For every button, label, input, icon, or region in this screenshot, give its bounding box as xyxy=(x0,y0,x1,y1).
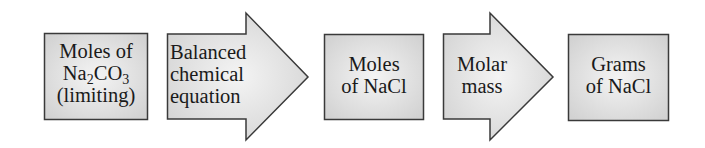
label-line: Moles of xyxy=(44,40,148,62)
label-line: Grams xyxy=(568,53,669,75)
label-molar-mass: Molar mass xyxy=(452,53,512,97)
label-line: of NaCl xyxy=(568,75,669,97)
label-grams-nacl: Grams of NaCl xyxy=(568,53,669,97)
label-line: chemical xyxy=(170,63,256,85)
flowchart-diagram: Moles of Na2CO3 (limiting) Balanced chem… xyxy=(0,0,705,148)
label-line: equation xyxy=(170,85,256,107)
label-line: (limiting) xyxy=(44,84,148,106)
label-line: Balanced xyxy=(170,41,256,63)
formula-na2co3: Na2CO3 xyxy=(44,62,148,84)
label-line: of NaCl xyxy=(324,75,424,97)
label-moles-nacl: Moles of NaCl xyxy=(324,53,424,97)
label-balanced-equation: Balanced chemical equation xyxy=(170,41,256,107)
label-line: mass xyxy=(452,75,512,97)
label-line: Moles xyxy=(324,53,424,75)
label-moles-na2co3: Moles of Na2CO3 (limiting) xyxy=(44,40,148,106)
label-line: Molar xyxy=(452,53,512,75)
